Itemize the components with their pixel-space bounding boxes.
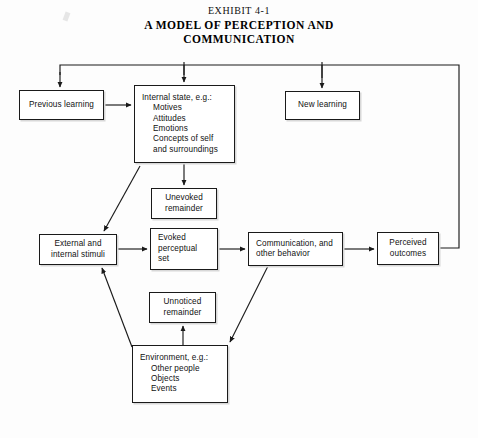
perceived-line-0: Perceived xyxy=(378,238,438,248)
internal-state-line-4: Concepts of self xyxy=(142,134,234,144)
internal-state-line-2: Attitudes xyxy=(142,114,234,124)
communication-line-1: other behavior xyxy=(256,249,342,259)
node-new-learning-label: New learning xyxy=(286,100,359,110)
node-previous-learning-label: Previous learning xyxy=(20,100,103,110)
node-unnoticed-remainder-label: Unnoticed remainder xyxy=(150,297,215,318)
evoked-line-2: set xyxy=(158,254,217,264)
node-perceived-outcomes[interactable]: Perceived outcomes xyxy=(377,232,439,265)
perceived-line-1: outcomes xyxy=(378,249,438,259)
unnoticed-line-1: remainder xyxy=(150,308,215,318)
environment-line-0: Environment, e.g.: xyxy=(140,353,227,363)
node-evoked-perceptual-set-label: Evoked perceptual set xyxy=(151,233,217,264)
node-external-internal-stimuli[interactable]: External and internal stimuli xyxy=(39,234,117,265)
node-environment-label: Environment, e.g.: Other people Objects … xyxy=(133,353,227,395)
node-new-learning[interactable]: New learning xyxy=(285,91,360,120)
node-previous-learning[interactable]: Previous learning xyxy=(19,90,104,120)
external-stimuli-line-1: internal stimuli xyxy=(40,250,116,260)
evoked-line-0: Evoked xyxy=(158,233,217,243)
node-environment[interactable]: Environment, e.g.: Other people Objects … xyxy=(132,345,228,403)
node-evoked-perceptual-set[interactable]: Evoked perceptual set xyxy=(150,228,218,270)
internal-state-line-1: Motives xyxy=(142,103,234,113)
node-perceived-outcomes-label: Perceived outcomes xyxy=(378,238,438,259)
environment-line-2: Objects xyxy=(140,374,227,384)
unevoked-line-0: Unevoked xyxy=(152,193,216,203)
external-stimuli-line-0: External and xyxy=(40,239,116,249)
environment-line-1: Other people xyxy=(140,364,227,374)
internal-state-line-5: and surroundings xyxy=(142,145,234,155)
edge-internal-state-to-external-stimuli xyxy=(104,166,140,231)
edge-communication-to-environment xyxy=(230,266,268,342)
edge-environment-to-external-stimuli xyxy=(102,268,132,347)
communication-line-0: Communication, and xyxy=(256,239,342,249)
node-unevoked-remainder-label: Unevoked remainder xyxy=(152,193,216,214)
node-external-internal-stimuli-label: External and internal stimuli xyxy=(40,239,116,260)
node-unnoticed-remainder[interactable]: Unnoticed remainder xyxy=(149,292,216,323)
unnoticed-line-0: Unnoticed xyxy=(150,297,215,307)
environment-line-3: Events xyxy=(140,384,227,394)
unevoked-line-1: remainder xyxy=(152,204,216,214)
node-communication-label: Communication, and other behavior xyxy=(249,239,342,260)
exhibit-page: EXHIBIT 4-1 A MODEL OF PERCEPTION AND CO… xyxy=(0,0,478,438)
evoked-line-1: perceptual xyxy=(158,244,217,254)
connector-layer xyxy=(0,0,478,438)
node-communication-and-other-behavior[interactable]: Communication, and other behavior xyxy=(248,232,343,266)
internal-state-line-0: Internal state, e.g.: xyxy=(142,93,234,103)
node-unevoked-remainder[interactable]: Unevoked remainder xyxy=(151,188,217,219)
edge-feedback-bus xyxy=(60,65,459,248)
internal-state-line-3: Emotions xyxy=(142,124,234,134)
node-internal-state[interactable]: Internal state, e.g.: Motives Attitudes … xyxy=(134,85,235,163)
node-internal-state-label: Internal state, e.g.: Motives Attitudes … xyxy=(135,93,234,155)
